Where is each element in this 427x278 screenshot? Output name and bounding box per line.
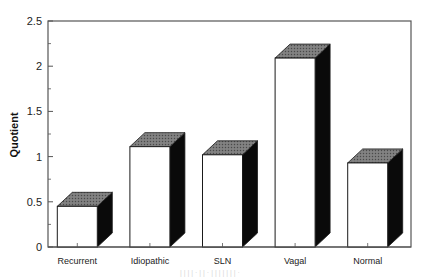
x-tick-label: Recurrent bbox=[58, 256, 98, 266]
bleed-through-artifact: | | | | · | | · | | | | | | | · bbox=[180, 269, 240, 277]
bar-normal bbox=[348, 149, 403, 247]
x-tick-label: SLN bbox=[214, 256, 232, 266]
bar-recurrent bbox=[57, 192, 112, 247]
y-tick-label: 2.5 bbox=[27, 15, 42, 27]
x-tick-label: Normal bbox=[353, 256, 382, 266]
x-axis-labels: RecurrentIdiopathicSLNVagalNormal bbox=[58, 256, 383, 266]
y-axis: 00.511.522.5 bbox=[27, 15, 53, 253]
y-axis-label: Quotient bbox=[8, 112, 20, 158]
bar-chart: 00.511.522.5 RecurrentIdiopathicSLNVagal… bbox=[0, 0, 427, 278]
x-tick-label: Vagal bbox=[284, 256, 306, 266]
y-tick-label: 2 bbox=[36, 60, 42, 72]
bar-sln bbox=[203, 141, 258, 247]
bar-vagal bbox=[275, 44, 330, 247]
y-tick-label: 0 bbox=[36, 241, 42, 253]
y-tick-label: 1 bbox=[36, 151, 42, 163]
bars bbox=[57, 44, 402, 247]
y-tick-label: 1.5 bbox=[27, 105, 42, 117]
x-tick-label: Idiopathic bbox=[131, 256, 170, 266]
bar-idiopathic bbox=[130, 133, 185, 247]
y-tick-label: 0.5 bbox=[27, 196, 42, 208]
